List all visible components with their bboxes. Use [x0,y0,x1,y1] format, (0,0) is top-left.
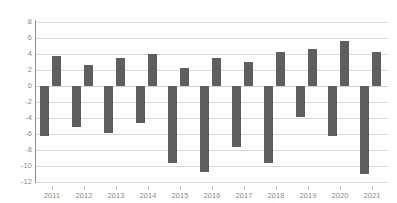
x-tick-label: 2021 [355,192,389,200]
x-tick-label: 2020 [323,192,357,200]
bar [148,54,157,86]
x-axis-labels: 2011201220132014201520162017201820192020… [36,186,388,200]
y-tick-label: 6 [2,34,32,42]
x-tick-mark [212,186,213,190]
x-tick-label: 2015 [163,192,197,200]
x-tick-mark [372,186,373,190]
y-tick-label: -8 [2,146,32,154]
bar [264,86,273,163]
x-tick-label: 2014 [131,192,165,200]
bar [180,68,189,86]
x-tick-label: 2012 [67,192,101,200]
bar [200,86,209,172]
bar [84,65,93,86]
x-tick-label: 2018 [259,192,293,200]
bar-group [164,22,196,182]
y-tick-label: 4 [2,50,32,58]
y-tick-label: -4 [2,114,32,122]
bar-group [356,22,388,182]
bar-group [260,22,292,182]
bar-chart: 86420-2-4-6-8-10-12 20112012201320142015… [0,0,397,203]
y-tick-label: -12 [2,178,32,186]
bar [244,62,253,86]
bar [308,49,317,86]
bar [136,86,145,123]
x-tick-mark [84,186,85,190]
bar [116,58,125,86]
x-tick-label: 2019 [291,192,325,200]
x-tick-mark [116,186,117,190]
bar [232,86,241,147]
bar [40,86,49,136]
bar [72,86,81,127]
x-tick-label: 2011 [35,192,69,200]
bar-group [132,22,164,182]
bar [328,86,337,136]
bar-group [324,22,356,182]
y-tick-label: -10 [2,162,32,170]
x-tick-mark [340,186,341,190]
bar-group [100,22,132,182]
bar [168,86,177,163]
bar-group [292,22,324,182]
x-tick-mark [148,186,149,190]
y-tick-label: -6 [2,130,32,138]
bar [276,52,285,86]
bar [340,41,349,86]
y-tick-label: 8 [2,18,32,26]
bar-group [228,22,260,182]
x-tick-label: 2013 [99,192,133,200]
x-tick-label: 2016 [195,192,229,200]
plot-area [36,22,388,182]
bar [360,86,369,174]
x-tick-label: 2017 [227,192,261,200]
bar-group [196,22,228,182]
bar [372,52,381,86]
y-tick-label: 0 [2,82,32,90]
x-tick-mark [180,186,181,190]
bar-group [36,22,68,182]
gridline-neg12 [36,182,388,183]
x-tick-mark [308,186,309,190]
bar [296,86,305,117]
y-tick-label: -2 [2,98,32,106]
bar-groups [36,22,388,182]
bar [104,86,113,133]
y-tick-label: 2 [2,66,32,74]
bar [52,56,61,86]
bar-group [68,22,100,182]
y-axis-labels: 86420-2-4-6-8-10-12 [0,22,32,182]
x-tick-mark [244,186,245,190]
x-tick-mark [276,186,277,190]
bar [212,58,221,86]
x-tick-mark [52,186,53,190]
